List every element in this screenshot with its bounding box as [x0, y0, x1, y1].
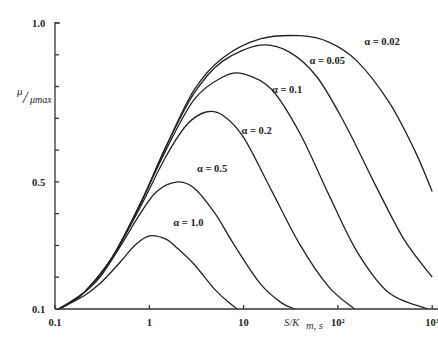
y-label-slash: /: [22, 89, 29, 106]
y-tick-label: 0.1: [32, 304, 45, 315]
x-tick-label: 1: [147, 317, 152, 328]
curve-label: α = 0.1: [272, 84, 302, 95]
y-label-mu: μ: [16, 85, 23, 97]
curve-series-3: [59, 73, 428, 309]
x-label-main: S/K: [284, 317, 300, 328]
curve-label: α = 0.2: [241, 125, 271, 136]
x-label-sub: m, s: [306, 320, 323, 331]
x-axis-label: S/K m, s: [284, 317, 323, 331]
x-tick-label: 10: [238, 317, 249, 328]
x-tick-label: 0.1: [48, 317, 61, 328]
curve-label: α = 1.0: [173, 217, 203, 228]
chart: α = 1.0α = 0.5α = 0.2α = 0.1α = 0.05α = …: [0, 0, 438, 345]
curve-label: α = 0.02: [364, 36, 399, 47]
curve-series-1: [59, 182, 295, 309]
curve-label: α = 0.5: [197, 163, 227, 174]
y-axis-label: μ / μmax: [16, 85, 52, 106]
y-tick-label: 1.0: [32, 18, 45, 29]
curve-labels: α = 1.0α = 0.5α = 0.2α = 0.1α = 0.05α = …: [173, 36, 399, 228]
curve-series-0: [59, 236, 237, 309]
curve-label: α = 0.05: [310, 55, 345, 66]
curves: [59, 35, 432, 309]
x-tick-label: 10³: [425, 317, 438, 328]
y-tick-label: 0.5: [32, 177, 45, 188]
x-tick-label: 10²: [331, 317, 345, 328]
y-label-mumax: μmax: [29, 94, 52, 105]
